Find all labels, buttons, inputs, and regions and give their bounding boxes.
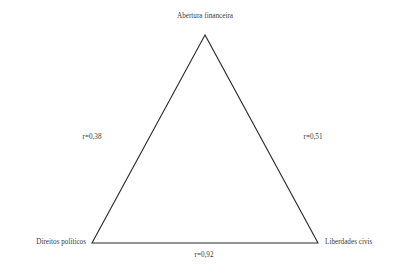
edge-label-right-correlation: r=0,51	[303, 134, 322, 142]
vertex-label-abertura-financeira: Abertura financeira	[177, 13, 233, 21]
triangle-outline	[92, 35, 318, 243]
edge-label-bottom-correlation: r=0,92	[194, 252, 213, 260]
correlation-triangle-diagram: Abertura financeira Direitos políticos L…	[0, 0, 405, 274]
vertex-label-direitos-politicos: Direitos políticos	[36, 239, 86, 247]
edge-label-left-correlation: r=0,38	[82, 134, 101, 142]
triangle-shape	[0, 0, 405, 274]
vertex-label-liberdades-civis: Liberdades civis	[325, 239, 372, 247]
